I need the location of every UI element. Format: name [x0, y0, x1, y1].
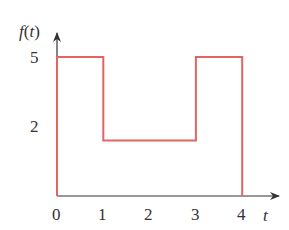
y-tick-label-2: 2	[30, 117, 39, 136]
x-axis-label: t	[263, 206, 269, 225]
y-tick-label-5: 5	[30, 48, 39, 67]
step-function-plot: f(t) 5 2 0 1 2 3 4 t	[0, 0, 289, 230]
x-tick-label-4: 4	[237, 205, 246, 224]
x-tick-label-3: 3	[191, 205, 200, 224]
signal-step-line	[57, 57, 242, 196]
x-tick-label-1: 1	[98, 205, 107, 224]
x-tick-label-2: 2	[144, 205, 153, 224]
x-tick-label-0: 0	[52, 205, 61, 224]
y-axis-label: f(t)	[19, 22, 40, 41]
plot-canvas: f(t) 5 2 0 1 2 3 4 t	[0, 0, 289, 230]
